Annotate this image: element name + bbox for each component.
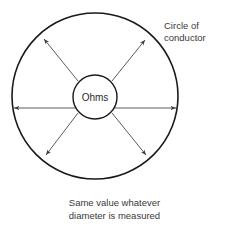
figure-caption: Same value whatever diameter is measured	[0, 196, 229, 222]
caption-line-1: Same value whatever	[0, 196, 229, 209]
figure-container: Ohms Circle of conductor Same value what…	[0, 0, 229, 235]
caption-line-2: diameter is measured	[0, 209, 229, 222]
annotation-line-2: conductor	[164, 32, 206, 44]
circle-of-conductor-annotation: Circle of conductor	[164, 20, 206, 44]
annotation-line-1: Circle of	[164, 20, 206, 32]
ohms-label: Ohms	[82, 92, 109, 103]
